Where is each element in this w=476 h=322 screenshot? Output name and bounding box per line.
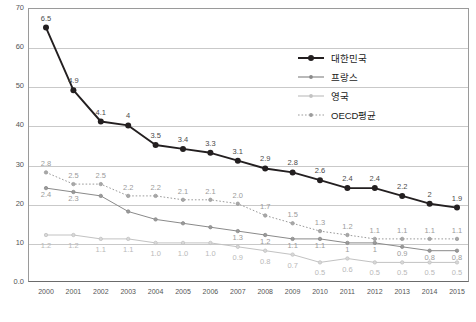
data-point <box>262 166 268 172</box>
data-point-label: 0.9 <box>225 254 251 262</box>
data-point <box>401 261 404 264</box>
data-point <box>428 237 431 240</box>
data-point-label: 0.5 <box>362 269 388 277</box>
data-point <box>455 237 458 240</box>
data-point-label: 2.3 <box>60 195 86 203</box>
data-point <box>264 249 267 252</box>
data-point <box>264 214 267 217</box>
data-point <box>318 261 321 264</box>
data-point <box>346 233 349 236</box>
data-point-label: 2.5 <box>60 172 86 180</box>
data-point-label: 4.9 <box>60 77 86 85</box>
data-point <box>181 198 184 201</box>
data-point <box>153 142 159 148</box>
data-point <box>181 241 184 244</box>
data-point-label: 1.3 <box>225 234 251 242</box>
data-point <box>180 146 186 152</box>
data-point-label: 1.3 <box>307 219 333 227</box>
data-point <box>401 245 404 248</box>
data-point <box>291 253 294 256</box>
data-point <box>44 171 47 174</box>
data-point-label: 2.2 <box>389 183 415 191</box>
data-point-label: 0.6 <box>334 266 360 274</box>
data-point-label: 1.1 <box>362 227 388 235</box>
data-point-label: 0.5 <box>444 269 470 277</box>
data-point <box>99 194 102 197</box>
data-point-label: 0.7 <box>280 262 306 270</box>
data-point-label: 0.5 <box>307 269 333 277</box>
data-point-label: 2.1 <box>197 188 223 196</box>
data-point-label: 0.5 <box>389 269 415 277</box>
data-point <box>291 222 294 225</box>
data-point-label: 0.9 <box>389 250 415 258</box>
data-point-label: 1.2 <box>252 238 278 246</box>
data-point-label: 3.4 <box>170 136 196 144</box>
data-point-label: 1.5 <box>280 211 306 219</box>
data-point <box>72 182 75 185</box>
data-point-label: 0.5 <box>417 269 443 277</box>
data-point-label: 1.1 <box>88 246 114 254</box>
data-point-label: 0.8 <box>444 254 470 262</box>
legend-item[interactable]: OECD평균 <box>296 105 418 124</box>
data-point-label: 1.1 <box>280 242 306 250</box>
data-point <box>344 185 350 191</box>
data-point <box>399 193 405 199</box>
data-point-label: 1.1 <box>389 227 415 235</box>
legend-item[interactable]: 프랑스 <box>296 67 418 86</box>
data-point-label: 3.1 <box>225 148 251 156</box>
data-point <box>455 249 458 252</box>
legend-item-label: OECD평균 <box>326 108 376 122</box>
data-point <box>235 158 241 164</box>
data-point <box>373 261 376 264</box>
data-point <box>427 201 433 207</box>
data-point <box>290 169 296 175</box>
legend-item-label: 영국 <box>326 89 349 103</box>
data-point-label: 2.4 <box>362 175 388 183</box>
data-point-label: 2.6 <box>307 167 333 175</box>
data-point <box>346 257 349 260</box>
data-point-label: 2.1 <box>170 188 196 196</box>
data-point <box>207 150 213 156</box>
data-point <box>236 245 239 248</box>
data-point-label: 4.1 <box>88 109 114 117</box>
data-point <box>373 237 376 240</box>
data-point-label: 1.7 <box>252 203 278 211</box>
data-point <box>43 25 49 31</box>
data-point <box>154 241 157 244</box>
data-point <box>154 194 157 197</box>
data-point-label: 2 <box>417 191 443 199</box>
data-point-label: 2.8 <box>280 159 306 167</box>
data-point <box>428 249 431 252</box>
legend: 대한민국프랑스영국OECD평균 <box>296 48 418 124</box>
data-point-label: 6.5 <box>33 15 59 23</box>
legend-marker-icon <box>296 52 326 64</box>
data-point <box>401 237 404 240</box>
legend-item[interactable]: 대한민국 <box>296 48 418 67</box>
data-point <box>98 119 104 125</box>
line-chart: 0.010203040506070 2000200120022003200420… <box>0 0 476 322</box>
data-point <box>99 237 102 240</box>
legend-item[interactable]: 영국 <box>296 86 418 105</box>
data-point-label: 1 <box>362 246 388 254</box>
data-point <box>154 218 157 221</box>
data-point <box>72 233 75 236</box>
data-point-label: 1.1 <box>307 242 333 250</box>
data-point-label: 1.2 <box>334 223 360 231</box>
legend-marker-icon <box>296 71 326 83</box>
data-point-label: 1.1 <box>417 227 443 235</box>
data-point-label: 3.3 <box>197 140 223 148</box>
data-point <box>209 198 212 201</box>
legend-marker-icon <box>296 109 326 121</box>
data-point-label: 1.1 <box>444 227 470 235</box>
data-point <box>127 194 130 197</box>
legend-item-label: 프랑스 <box>326 70 358 84</box>
data-point-label: 2.9 <box>252 155 278 163</box>
data-point <box>125 122 131 128</box>
data-point <box>127 237 130 240</box>
data-point <box>181 222 184 225</box>
data-point <box>209 226 212 229</box>
data-point-label: 1.0 <box>170 250 196 258</box>
legend-item-label: 대한민국 <box>326 51 367 65</box>
data-point-label: 2.8 <box>33 160 59 168</box>
data-point-label: 2.2 <box>115 184 141 192</box>
